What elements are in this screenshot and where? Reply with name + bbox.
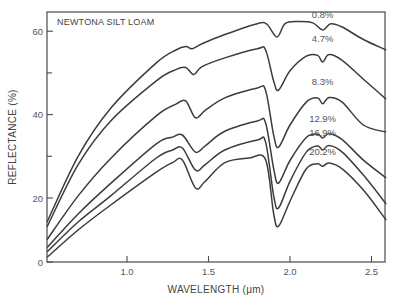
y-tick-label: 0: [38, 257, 43, 268]
y-axis-ticks: 0204060: [32, 26, 53, 268]
x-tick-label: 1.5: [202, 266, 215, 277]
series-lines: [47, 22, 386, 258]
y-tick-label: 20: [32, 193, 43, 204]
y-tick-label: 40: [32, 109, 43, 120]
x-tick-label: 2.5: [365, 266, 378, 277]
x-axis-ticks: 1.01.52.02.5: [120, 256, 378, 277]
series-label: 0.8%: [312, 9, 334, 20]
reflectance-chart: NEWTONA SILT LOAM 1.01.52.02.5 0204060 W…: [0, 0, 400, 306]
x-tick-label: 2.0: [283, 266, 296, 277]
series-label: 16.9%: [309, 127, 336, 138]
series-label: 4.7%: [312, 33, 334, 44]
series-label: 20.2%: [309, 146, 336, 157]
chart-title: NEWTONA SILT LOAM: [57, 17, 154, 27]
y-axis-title: REFLECTANCE (%): [7, 89, 18, 184]
series-labels: 0.8%4.7%8.3%12.9%16.9%20.2%: [309, 9, 336, 158]
series-label: 12.9%: [309, 113, 336, 124]
series-line-8-3pct: [47, 86, 386, 240]
y-tick-label: 60: [32, 26, 43, 37]
x-axis-title: WAVELENGTH (μm): [168, 284, 265, 295]
series-label: 8.3%: [312, 76, 334, 87]
x-tick-label: 1.0: [120, 266, 133, 277]
